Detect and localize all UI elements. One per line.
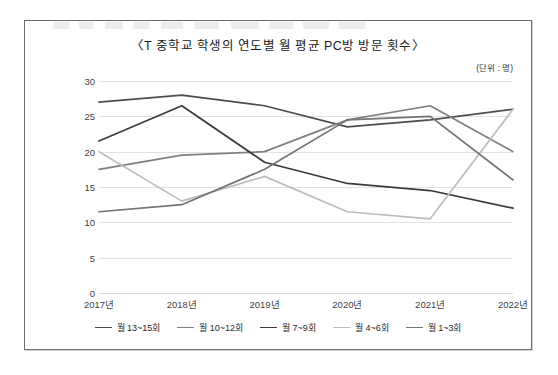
legend-swatch-icon	[406, 327, 423, 328]
y-axis-tick-label: 10	[77, 217, 95, 228]
x-axis-ticks: 2017년2018년2019년2020년2021년2022년	[99, 297, 513, 313]
legend-item-label: 월 4~6회	[355, 321, 389, 334]
x-axis-tick-label: 2019년	[250, 297, 280, 311]
legend-item[interactable]: 월 13~15회	[95, 321, 161, 334]
series-line	[99, 106, 513, 208]
y-axis-tick-label: 30	[77, 76, 95, 87]
legend-item[interactable]: 월 7~9회	[260, 321, 316, 334]
x-axis-tick-label: 2021년	[415, 297, 445, 311]
y-axis-tick-label: 25	[77, 111, 95, 122]
x-axis-tick-label: 2018년	[167, 297, 197, 311]
series-lines	[99, 81, 513, 293]
series-line	[99, 95, 513, 127]
gridline	[99, 293, 513, 294]
legend-item-label: 월 7~9회	[282, 321, 316, 334]
legend-item[interactable]: 월 10~12회	[177, 321, 243, 334]
legend-item[interactable]: 월 4~6회	[333, 321, 389, 334]
x-axis-tick-label: 2020년	[332, 297, 362, 311]
chart-legend: 월 13~15회월 10~12회월 7~9회월 4~6회월 1~3회	[25, 321, 531, 334]
chart-unit-label: (단위 : 명)	[476, 61, 513, 73]
y-axis-tick-label: 5	[77, 252, 95, 263]
chart-figure-frame: 〈T 중학교 학생의 연도별 월 평균 PC방 방문 횟수〉 (단위 : 명) …	[24, 20, 532, 350]
chart-title: 〈T 중학교 학생의 연도별 월 평균 PC방 방문 횟수〉	[25, 35, 531, 54]
y-axis-tick-label: 15	[77, 182, 95, 193]
legend-item[interactable]: 월 1~3회	[406, 321, 462, 334]
x-axis-tick-label: 2022년	[498, 297, 528, 311]
x-axis-tick-label: 2017년	[84, 297, 114, 311]
series-line	[99, 109, 513, 219]
legend-item-label: 월 1~3회	[428, 321, 462, 334]
scan-artifact	[53, 22, 383, 29]
legend-swatch-icon	[95, 327, 112, 328]
y-axis-tick-label: 20	[77, 146, 95, 157]
legend-swatch-icon	[260, 327, 277, 328]
legend-item-label: 월 10~12회	[199, 321, 243, 334]
legend-swatch-icon	[333, 327, 350, 328]
legend-swatch-icon	[177, 327, 194, 328]
legend-item-label: 월 13~15회	[117, 321, 161, 334]
series-line	[99, 116, 513, 211]
plot-area: 051015202530	[77, 81, 513, 293]
